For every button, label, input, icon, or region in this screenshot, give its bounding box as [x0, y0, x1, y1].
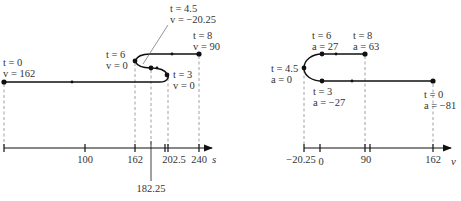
right-path — [304, 54, 433, 81]
s-tick-162: 162 — [127, 154, 143, 165]
value-label: a = 63 — [353, 41, 379, 52]
s-tick-182-25: 182.25 — [137, 183, 166, 194]
time-label: t = 8 — [193, 30, 220, 41]
time-label: t = 8 — [353, 30, 379, 41]
value-label: a = 27 — [312, 41, 338, 52]
value-label: a = −27 — [313, 97, 345, 108]
v-tick-162: 162 — [425, 154, 441, 165]
s-tick-240: 240 — [191, 154, 207, 165]
value-label: a = −81 — [424, 100, 456, 111]
v-axis — [304, 144, 451, 152]
left-point-label-t3: t = 3 v = 0 — [173, 69, 195, 91]
time-label: t = 3 — [173, 69, 195, 80]
time-label: t = 0 — [3, 57, 35, 68]
value-label: v = 162 — [3, 68, 35, 79]
right-points — [302, 51, 436, 83]
left-point-label-t6: t = 6 v = 0 — [106, 49, 128, 71]
left-point-label-t0: t = 0 v = 162 — [3, 57, 35, 79]
s-tick-202-5: 202.5 — [162, 154, 186, 165]
left-point-label-t45: t = 4.5 v = −20.25 — [170, 3, 216, 25]
right-point-label-t8: t = 8 a = 63 — [353, 30, 379, 52]
right-point-label-t6: t = 6 a = 27 — [312, 30, 338, 52]
time-label: t = 6 — [106, 49, 128, 60]
value-label: v = −20.25 — [170, 14, 216, 25]
v-tick-90: 90 — [361, 154, 372, 165]
v-axis-label: v — [451, 155, 456, 167]
s-tick-100: 100 — [77, 154, 93, 165]
v-tick-neg-20-25: −20.25 — [286, 154, 316, 165]
value-label: v = 90 — [193, 41, 220, 52]
left-point-label-t8: t = 8 v = 90 — [193, 30, 220, 52]
right-point-label-t3: t = 3 a = −27 — [313, 86, 345, 108]
time-label: t = 3 — [313, 86, 345, 97]
diagram-canvas — [0, 0, 461, 201]
time-label: t = 0 — [424, 89, 456, 100]
s-axis-label: s — [212, 153, 216, 165]
value-label: v = 0 — [106, 60, 128, 71]
left-leader-line — [143, 25, 168, 64]
time-label: t = 4.5 — [271, 63, 298, 74]
v-tick-0: 0 — [318, 156, 323, 167]
time-label: t = 6 — [312, 30, 338, 41]
value-label: v = 0 — [173, 80, 195, 91]
time-label: t = 4.5 — [170, 3, 216, 14]
right-point-label-t0: t = 0 a = −81 — [424, 89, 456, 111]
right-point-label-t45: t = 4.5 a = 0 — [271, 63, 298, 85]
value-label: a = 0 — [271, 74, 298, 85]
